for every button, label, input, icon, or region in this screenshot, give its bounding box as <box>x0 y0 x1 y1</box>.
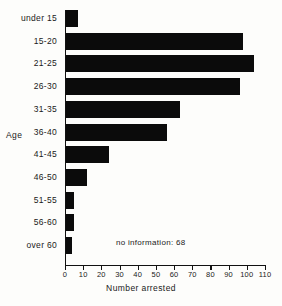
x-axis-tick <box>192 265 193 270</box>
bar-chart: under 1515-2021-2526-3031-3536-4041-4546… <box>0 0 282 306</box>
bar <box>65 78 240 95</box>
category-label: 56-60 <box>0 218 61 227</box>
bar <box>65 146 109 163</box>
x-axis-tick-label: 20 <box>97 270 106 279</box>
category-label: 31-35 <box>0 105 61 114</box>
category-label: over 60 <box>0 241 61 250</box>
x-axis-tick-label: 90 <box>224 270 233 279</box>
bar <box>65 214 74 231</box>
x-axis-tick <box>247 265 248 270</box>
x-axis-line <box>65 265 266 266</box>
x-axis-tick-label: 50 <box>152 270 161 279</box>
x-axis-tick-label: 40 <box>133 270 142 279</box>
category-label: under 15 <box>0 14 61 23</box>
x-axis-tick <box>174 265 175 270</box>
bar <box>65 192 74 209</box>
x-axis-tick <box>138 265 139 270</box>
category-label-column: under 1515-2021-2526-3031-3536-4041-4546… <box>0 0 61 306</box>
bar <box>65 237 72 254</box>
bar <box>65 169 87 186</box>
annotation-no-information: no information: 68 <box>116 238 185 247</box>
bar <box>65 10 78 27</box>
x-axis-tick-label: 60 <box>170 270 179 279</box>
x-axis-tick <box>265 265 266 270</box>
x-axis-tick-label: 110 <box>259 270 272 279</box>
x-axis-tick-label: 80 <box>206 270 215 279</box>
x-axis-title: Number arrested <box>0 283 282 293</box>
y-axis-title: Age <box>6 130 22 140</box>
category-label: 26-30 <box>0 82 61 91</box>
x-axis-tick-label: 30 <box>115 270 124 279</box>
x-axis-tick <box>156 265 157 270</box>
plot-area <box>65 10 265 265</box>
bar <box>65 124 167 141</box>
x-axis-tick-label: 10 <box>79 270 88 279</box>
bar <box>65 33 243 50</box>
x-axis-tick <box>101 265 102 270</box>
x-axis-tick <box>65 265 66 270</box>
x-axis-tick <box>210 265 211 270</box>
x-axis-tick <box>83 265 84 270</box>
bar <box>65 101 180 118</box>
category-label: 15-20 <box>0 37 61 46</box>
x-axis-tick-label: 70 <box>188 270 197 279</box>
x-axis-tick-label: 100 <box>240 270 253 279</box>
x-axis-tick <box>229 265 230 270</box>
category-label: 21-25 <box>0 59 61 68</box>
x-axis-tick <box>120 265 121 270</box>
bar <box>65 55 254 72</box>
y-axis-line <box>65 10 66 265</box>
category-label: 51-55 <box>0 196 61 205</box>
category-label: 41-45 <box>0 150 61 159</box>
category-label: 46-50 <box>0 173 61 182</box>
x-axis-tick-label: 0 <box>63 270 67 279</box>
